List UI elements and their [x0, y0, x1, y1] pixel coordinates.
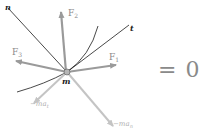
- particle-point: [64, 69, 70, 75]
- label-f3: F3: [12, 47, 22, 58]
- force-f3-arrow: [16, 61, 67, 72]
- label-n: n: [5, 2, 11, 12]
- normal-axis-line: [8, 8, 67, 72]
- label-minus-ma-t: −mat: [30, 100, 50, 109]
- force-f2-arrow: [61, 12, 66, 72]
- inertia-normal-arrow: [67, 72, 113, 126]
- label-m: m: [62, 76, 70, 86]
- label-t: t: [130, 23, 134, 33]
- label-f2: F2: [68, 8, 78, 19]
- tangent-axis-line: [67, 25, 129, 72]
- label-f1: F1: [109, 52, 119, 63]
- equals-zero: = 0: [158, 57, 200, 82]
- label-minus-ma-n: −man: [113, 120, 133, 129]
